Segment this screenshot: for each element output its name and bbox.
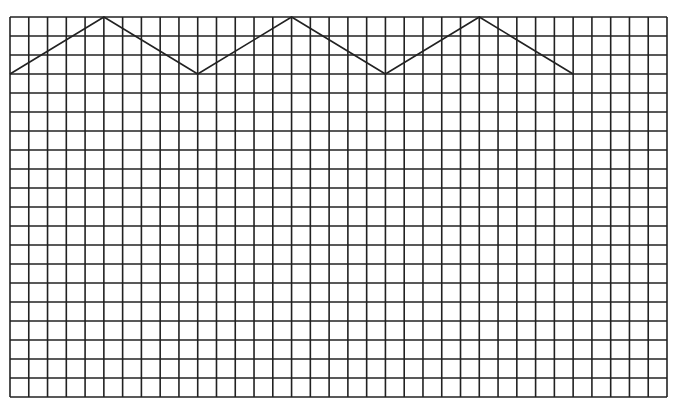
grid-lines	[10, 17, 667, 397]
grid-diagram	[0, 0, 681, 412]
